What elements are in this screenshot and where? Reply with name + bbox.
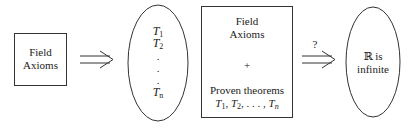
implies-arrow-1: [80, 51, 113, 68]
field-axioms-label: Field Axioms: [14, 46, 67, 72]
theorem-sequence: T1, T2, . . . , Tn: [201, 97, 293, 110]
theorem-tn: Tn: [128, 86, 188, 99]
field-axioms-line1: Field: [14, 46, 67, 59]
box2-line1: Field: [201, 15, 293, 28]
conclusion-line1: ℝ is: [346, 50, 400, 63]
theorem-t2: T2: [128, 37, 188, 49]
field-axioms-line2: Axioms: [14, 59, 67, 72]
box2-line2: Axioms: [201, 28, 293, 41]
plus-sign: +: [201, 59, 293, 72]
box2-axioms-label: Field Axioms: [201, 15, 293, 41]
implies-arrow-2: [302, 51, 335, 68]
theorem-list: T1 T2: [128, 25, 188, 49]
conclusion-line2: infinite: [346, 63, 400, 76]
conclusion-label: ℝ is infinite: [346, 50, 400, 76]
question-mark-label: ?: [305, 38, 325, 51]
proven-theorems-label: Proven theorems: [201, 84, 293, 97]
